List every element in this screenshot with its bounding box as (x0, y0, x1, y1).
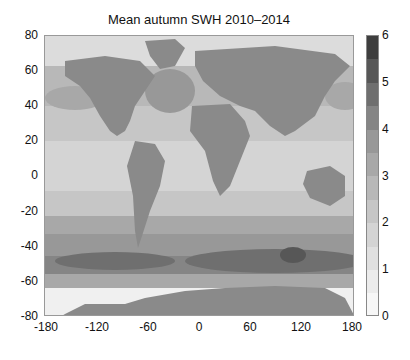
map-plot-area (44, 35, 354, 316)
colorbar-tick: 0 (382, 309, 389, 323)
x-tick: -120 (85, 320, 109, 334)
y-tick: 80 (25, 28, 38, 42)
colorbar-tick: 2 (382, 215, 389, 229)
x-tick: -180 (34, 320, 58, 334)
x-tick: 180 (342, 320, 362, 334)
x-tick: 60 (243, 320, 256, 334)
colorbar-tick: 5 (382, 75, 389, 89)
colorbar-tick: 1 (382, 262, 389, 276)
x-tick: 120 (291, 320, 311, 334)
colorbar-tick: 4 (382, 122, 389, 136)
y-tick: 0 (31, 168, 38, 182)
colorbar-tick: 6 (382, 28, 389, 42)
y-tick: -40 (21, 239, 38, 253)
y-tick: -20 (21, 204, 38, 218)
y-tick: 40 (25, 98, 38, 112)
colorbar-tick: 3 (382, 169, 389, 183)
x-tick: -60 (139, 320, 156, 334)
swh-map (45, 36, 354, 316)
y-tick: 60 (25, 63, 38, 77)
y-tick: 20 (25, 133, 38, 147)
x-tick: 0 (196, 320, 203, 334)
colorbar (366, 35, 379, 316)
chart-title: Mean autumn SWH 2010–2014 (44, 12, 354, 27)
y-tick: -60 (21, 274, 38, 288)
